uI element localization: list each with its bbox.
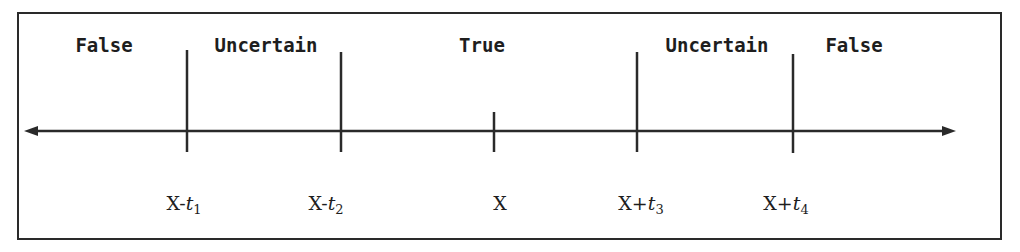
tick-label-sub: 4 — [800, 202, 808, 217]
region-label-uncertain-right: Uncertain — [666, 34, 769, 56]
tick-label-sub: 1 — [193, 202, 201, 217]
region-label-false-left: False — [75, 34, 132, 56]
tick-label-base: X+ — [618, 192, 647, 214]
tick-label-var: t — [328, 192, 336, 214]
tick-label-base: X- — [166, 192, 185, 214]
tick-label-var: t — [648, 192, 656, 214]
tick-label-x-plus-t3: X+t3 — [618, 192, 663, 217]
region-label-false-right: False — [825, 34, 882, 56]
tick-label-x-minus-t1: X-t1 — [166, 192, 201, 217]
tick-label-var: t — [186, 192, 194, 214]
tick-label-sub: 3 — [655, 202, 663, 217]
tick-label-x: X — [493, 192, 507, 214]
tick-label-var: t — [793, 192, 801, 214]
left-arrow-icon — [24, 126, 38, 136]
tick-label-base: X- — [308, 192, 327, 214]
tick-label-x-minus-t2: X-t2 — [308, 192, 343, 217]
tick-label-sub: 2 — [335, 202, 343, 217]
tick-label-base: X+ — [763, 192, 792, 214]
tick-label-base: X — [493, 192, 507, 214]
tick-label-x-plus-t4: X+t4 — [763, 192, 808, 217]
region-label-uncertain-left: Uncertain — [215, 34, 318, 56]
right-arrow-icon — [942, 126, 956, 136]
region-label-true: True — [459, 34, 505, 56]
